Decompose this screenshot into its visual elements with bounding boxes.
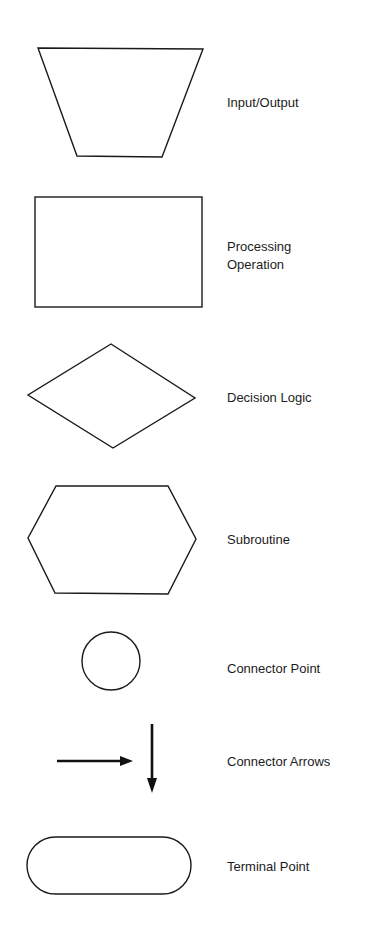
- terminal-rounded-rect-shape: [27, 837, 191, 894]
- processing-label-line-1: Processing: [227, 238, 291, 256]
- subroutine-label: Subroutine: [227, 531, 290, 549]
- flowchart-symbol-legend: [0, 0, 386, 933]
- right-arrow-head-icon: [120, 756, 133, 766]
- terminal-point-label: Terminal Point: [227, 858, 309, 876]
- input-output-label: Input/Output: [227, 94, 299, 112]
- subroutine-hexagon-shape: [28, 486, 196, 594]
- processing-label-line-2: Operation: [227, 256, 284, 274]
- connector-circle-shape: [82, 632, 140, 690]
- connector-arrows-shape: [57, 724, 157, 793]
- connector-point-label: Connector Point: [227, 660, 320, 678]
- processing-rectangle-shape: [35, 197, 202, 307]
- decision-diamond-shape: [28, 344, 195, 448]
- decision-logic-label: Decision Logic: [227, 389, 312, 407]
- input-output-trapezoid-shape: [38, 48, 203, 157]
- down-arrow-head-icon: [147, 778, 157, 793]
- connector-arrows-label: Connector Arrows: [227, 753, 330, 771]
